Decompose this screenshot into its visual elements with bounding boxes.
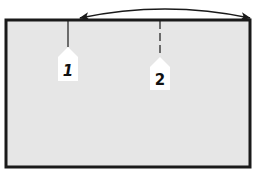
panel-rectangle	[6, 20, 250, 167]
marker-1-label: 1	[63, 62, 73, 80]
diagram-canvas: 1 2	[0, 0, 255, 176]
marker-2-label: 2	[155, 71, 165, 89]
double-headed-arrow	[80, 9, 250, 18]
